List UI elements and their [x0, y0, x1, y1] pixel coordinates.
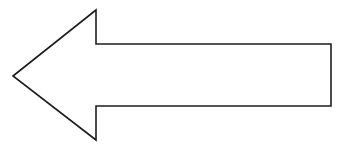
diagram-canvas	[0, 0, 342, 152]
